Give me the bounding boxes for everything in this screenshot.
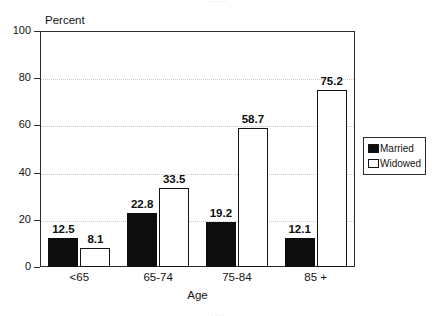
y-axis-tick (34, 267, 40, 268)
bar-value-label: 33.5 (151, 174, 197, 186)
bar-value-label: 8.1 (72, 234, 118, 246)
legend-item-label: Married (380, 144, 414, 154)
bar-widowed-1 (159, 188, 189, 267)
gridline (41, 221, 354, 222)
filled-square-icon (368, 144, 379, 153)
gridline (41, 126, 354, 127)
scan-artifact-top: ····· (0, 0, 437, 3)
legend-item-label: Widowed (380, 159, 421, 169)
gridline (41, 79, 354, 80)
bar-widowed-3 (317, 90, 347, 267)
y-axis-tick-label: 60 (0, 119, 31, 130)
bar-widowed-0 (80, 248, 110, 267)
legend-item-widowed: Widowed (368, 157, 421, 170)
gridline (41, 174, 354, 175)
x-axis-title: Age (0, 290, 395, 302)
bar-widowed-2 (238, 128, 268, 267)
y-axis-title: Percent (45, 15, 85, 27)
bar-value-label: 58.7 (230, 114, 276, 126)
y-axis-tick-label: 40 (0, 167, 31, 178)
bar-married-3 (285, 238, 315, 267)
legend-item-married: Married (368, 142, 421, 155)
y-axis-tick (34, 173, 40, 174)
x-axis-category-label: <65 (39, 272, 119, 284)
y-axis-tick (34, 220, 40, 221)
hollow-square-icon (368, 159, 379, 168)
chart-figure: ····· Percent 020406080100 12.58.122.833… (0, 0, 437, 316)
y-axis-tick (34, 78, 40, 79)
bar-value-label: 75.2 (309, 76, 355, 88)
chart-legend: MarriedWidowed (363, 137, 426, 175)
y-axis-tick-label: 100 (0, 25, 31, 36)
y-axis-tick-label: 80 (0, 72, 31, 83)
x-axis-category-label: 65-74 (118, 272, 198, 284)
scan-artifact-bottom: ···· (0, 311, 437, 316)
y-axis-tick (34, 125, 40, 126)
x-axis-category-label: 85 + (276, 272, 356, 284)
bar-married-1 (127, 213, 157, 267)
y-axis-tick-label: 20 (0, 214, 31, 225)
bar-married-2 (206, 222, 236, 267)
y-axis-tick (34, 31, 40, 32)
y-axis-tick-label: 0 (0, 261, 31, 272)
x-axis-category-label: 75-84 (197, 272, 277, 284)
